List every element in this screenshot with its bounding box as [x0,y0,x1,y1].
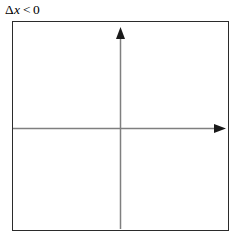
plot-frame [12,21,229,231]
delta-symbol: Δ [5,2,14,17]
caption-delta-x-less-than-zero: Δx<0 [5,1,40,18]
figure-root: Δx<0 [0,0,233,243]
less-than-sign: < [21,2,33,17]
value-zero: 0 [33,2,40,17]
horizontal-axis-arrowhead-icon [214,124,226,133]
vertical-axis-arrowhead-icon [116,27,125,39]
variable-x: x [14,2,21,17]
plot-inner [13,22,228,230]
coordinate-axes [13,22,227,229]
